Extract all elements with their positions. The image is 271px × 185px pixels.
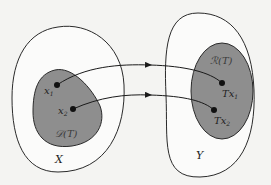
point-tx2 [211,107,217,113]
point-tx1 [219,80,225,86]
label-domain: 𝒟(T) [55,128,78,139]
label-set-x: X [54,153,64,166]
mapping-diagram: x1 x2 𝒟(T) ℛ(T) Tx1 Tx2 X Y [0,0,271,185]
point-x1 [54,82,60,88]
label-range: ℛ(T) [210,55,233,66]
point-x2 [70,106,76,112]
